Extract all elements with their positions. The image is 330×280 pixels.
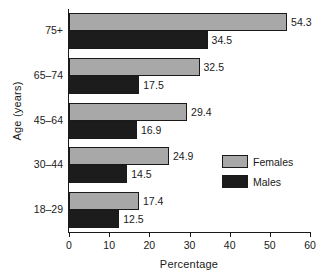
legend-swatch-icon bbox=[222, 155, 248, 168]
x-tick-mark bbox=[310, 232, 311, 237]
bar-females bbox=[69, 192, 139, 210]
plot-area: 18–2917.412.530–4424.914.545–6429.416.96… bbox=[68, 9, 310, 232]
x-tick-mark bbox=[109, 232, 110, 237]
x-tick-label: 30 bbox=[170, 239, 210, 251]
bar-value-label: 32.5 bbox=[204, 61, 224, 73]
y-tick-label: 65–74 bbox=[3, 69, 63, 81]
bar-group: 75+54.334.5 bbox=[69, 13, 310, 49]
legend-item: Males bbox=[222, 173, 293, 190]
bar-females bbox=[69, 58, 200, 76]
bar-value-label: 12.5 bbox=[123, 213, 143, 225]
bar-chart-figure: Age (years) 18–2917.412.530–4424.914.545… bbox=[0, 0, 330, 280]
x-tick-label: 40 bbox=[210, 239, 250, 251]
bar-males bbox=[69, 210, 119, 228]
bar-value-label: 54.3 bbox=[291, 16, 311, 28]
bar-row: 12.5 bbox=[69, 210, 310, 228]
bar-females bbox=[69, 147, 169, 165]
bar-group: 45–6429.416.9 bbox=[69, 103, 310, 139]
x-tick-mark bbox=[230, 232, 231, 237]
bar-value-label: 17.5 bbox=[143, 79, 163, 91]
bar-row: 16.9 bbox=[69, 121, 310, 139]
legend-swatch-icon bbox=[222, 175, 248, 188]
bar-row: 29.4 bbox=[69, 103, 310, 121]
y-tick-label: 30–44 bbox=[3, 158, 63, 170]
x-tick-mark bbox=[190, 232, 191, 237]
bar-row: 34.5 bbox=[69, 31, 310, 49]
x-tick-mark bbox=[270, 232, 271, 237]
bar-row: 17.4 bbox=[69, 192, 310, 210]
x-axis-title: Percentage bbox=[68, 258, 310, 270]
x-tick-mark bbox=[149, 232, 150, 237]
bar-males bbox=[69, 31, 208, 49]
bar-group: 18–2917.412.5 bbox=[69, 192, 310, 228]
y-tick-label: 75+ bbox=[3, 24, 63, 36]
legend-label: Females bbox=[253, 156, 293, 168]
bar-row: 17.5 bbox=[69, 76, 310, 94]
bar-value-label: 14.5 bbox=[131, 168, 151, 180]
bar-value-label: 24.9 bbox=[173, 150, 193, 162]
bar-group: 65–7432.517.5 bbox=[69, 58, 310, 94]
y-tick-label: 18–29 bbox=[3, 203, 63, 215]
bar-females bbox=[69, 103, 187, 121]
bar-value-label: 17.4 bbox=[143, 195, 163, 207]
bar-value-label: 16.9 bbox=[141, 124, 161, 136]
legend-item: Females bbox=[222, 153, 293, 170]
x-tick-label: 0 bbox=[49, 239, 89, 251]
bar-value-label: 34.5 bbox=[212, 34, 232, 46]
bar-value-label: 29.4 bbox=[191, 106, 211, 118]
bar-females bbox=[69, 13, 287, 31]
bar-males bbox=[69, 165, 127, 183]
x-tick-label: 20 bbox=[129, 239, 169, 251]
x-tick-mark bbox=[69, 232, 70, 237]
bar-males bbox=[69, 121, 137, 139]
x-tick-label: 50 bbox=[250, 239, 290, 251]
legend-label: Males bbox=[253, 176, 281, 188]
bar-row: 32.5 bbox=[69, 58, 310, 76]
bar-males bbox=[69, 76, 139, 94]
chart-legend: FemalesMales bbox=[222, 153, 293, 193]
x-tick-label: 60 bbox=[290, 239, 330, 251]
bar-row: 54.3 bbox=[69, 13, 310, 31]
x-tick-label: 10 bbox=[89, 239, 129, 251]
y-tick-label: 45–64 bbox=[3, 114, 63, 126]
